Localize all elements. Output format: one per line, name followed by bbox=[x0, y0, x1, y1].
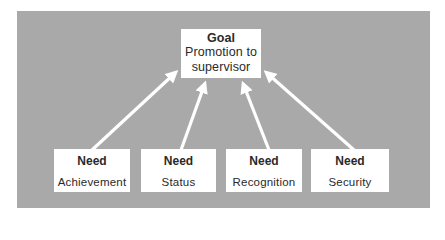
need-box-recognition: Need Recognition bbox=[226, 149, 302, 192]
goal-text-line1: Promotion to bbox=[181, 45, 261, 60]
need-title: Need bbox=[54, 154, 130, 168]
goal-box: Goal Promotion to supervisor bbox=[181, 29, 261, 78]
arrow-recognition-to-goal bbox=[244, 86, 269, 150]
need-title: Need bbox=[311, 154, 389, 168]
arrow-status-to-goal bbox=[181, 86, 204, 150]
need-label: Achievement bbox=[54, 175, 130, 189]
need-box-achievement: Need Achievement bbox=[54, 149, 130, 192]
need-box-security: Need Security bbox=[311, 149, 389, 192]
arrow-achievement-to-goal bbox=[92, 74, 174, 150]
need-label: Recognition bbox=[226, 175, 302, 189]
need-box-status: Need Status bbox=[141, 149, 216, 192]
need-title: Need bbox=[141, 154, 216, 168]
need-label: Status bbox=[141, 175, 216, 189]
need-title: Need bbox=[226, 154, 302, 168]
goal-title: Goal bbox=[181, 31, 261, 45]
goal-text-line2: supervisor bbox=[181, 60, 261, 75]
need-label: Security bbox=[311, 175, 389, 189]
arrow-security-to-goal bbox=[268, 74, 354, 150]
